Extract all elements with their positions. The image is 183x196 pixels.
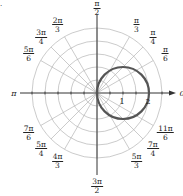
angle-label-5pi_over_6: 5π6: [23, 46, 35, 62]
grid-ray: [65, 37, 98, 93]
angle-label-zero: 0: [179, 90, 183, 97]
angle-label-pi_over_6: π6: [162, 46, 169, 62]
grid-ray: [51, 93, 97, 139]
arrow-icon: [169, 91, 176, 96]
grid-ray: [97, 93, 130, 149]
angle-label-pi_over_2: π2: [94, 0, 101, 16]
radial-label-1: 1: [119, 97, 124, 106]
angle-label-pi: π: [11, 90, 16, 97]
grid-ray: [65, 93, 98, 149]
angle-label-3pi_over_2: 3π2: [91, 178, 103, 194]
radial-label-2: 2: [145, 97, 150, 106]
grid-ray: [97, 37, 130, 93]
angle-label-7pi_over_6: 7π6: [23, 125, 35, 141]
grid-ray: [97, 61, 153, 94]
angle-label-4pi_over_3: 4π3: [52, 153, 64, 169]
angle-label-5pi_over_3: 5π3: [131, 153, 143, 169]
polar-graph: . π6π4π3π22π33π45π67π65π44π33π25π37π411π…: [0, 0, 183, 196]
angle-label-pi_over_4: π4: [149, 29, 156, 45]
angle-label-pi_over_3: π3: [133, 17, 140, 33]
angle-label-7pi_over_4: 7π4: [147, 141, 159, 157]
grid-ray: [41, 93, 97, 126]
angle-label-3pi_over_4: 3π4: [35, 29, 47, 45]
angle-label-11pi_over_6: 11π6: [157, 125, 173, 141]
angle-label-2pi_over_3: 2π3: [52, 17, 64, 33]
corner-mark: .: [0, 0, 2, 8]
grid-ray: [51, 47, 97, 93]
grid-ray: [41, 61, 97, 94]
angle-label-5pi_over_4: 5π4: [35, 141, 47, 157]
